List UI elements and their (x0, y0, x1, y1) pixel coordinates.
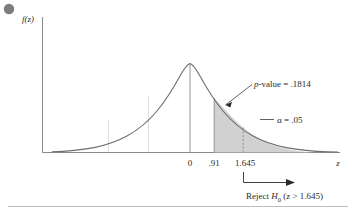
bullet-dot-icon (4, 4, 14, 14)
reject-region-bracket (244, 172, 289, 183)
reject-region-label: Reject H0 (z > 1.645) (246, 191, 323, 203)
x-axis-label: z (335, 158, 340, 168)
p-value-annotation: p-value = .1814 (253, 79, 311, 89)
chart-canvas: f(z) z 0 .91 1.645 p-value = .1814 α = .… (0, 0, 356, 211)
normal-distribution-figure: f(z) z 0 .91 1.645 p-value = .1814 α = .… (0, 0, 356, 211)
x-tick-label-91: .91 (209, 158, 220, 168)
p-value-shaded-region (214, 98, 340, 153)
x-tick-label-1645: 1.645 (235, 158, 256, 168)
reject-region-arrowhead-icon (286, 179, 295, 186)
y-axis-label: f(z) (22, 14, 34, 24)
p-value-leader-line (226, 85, 253, 106)
alpha-annotation: α = .05 (277, 115, 303, 125)
normal-curve (52, 64, 338, 153)
x-tick-label-0: 0 (188, 158, 193, 168)
